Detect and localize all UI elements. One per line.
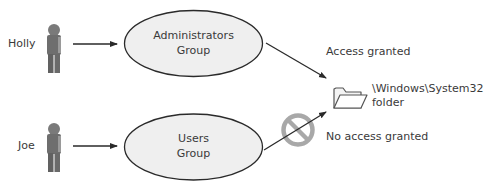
user-label-joe: Joe [18, 139, 35, 153]
access-granted-arrow [266, 43, 326, 78]
person-icon [44, 123, 64, 173]
prohibited-icon [284, 116, 313, 145]
administrators-group-label: Administrators Group [124, 28, 263, 58]
folder-path-label: \Windows\System32 [372, 82, 484, 96]
access-denied-label: No access granted [326, 130, 428, 144]
users-group-label: Users Group [124, 131, 263, 161]
folder-type-label: folder [372, 96, 404, 110]
user-label-holly: Holly [8, 37, 36, 51]
access-granted-label: Access granted [326, 45, 410, 59]
folder-icon [332, 84, 368, 110]
person-icon [44, 24, 64, 74]
